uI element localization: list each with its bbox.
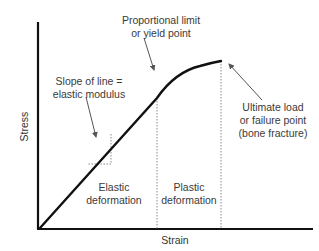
yield-label-line2: or yield point xyxy=(96,27,226,40)
yield-point-label: Proportional limit or yield point xyxy=(96,14,226,40)
elastic-deformation-label: Elastic deformation xyxy=(74,181,154,207)
elastic-label-line2: deformation xyxy=(74,194,154,207)
ultimate-arrow xyxy=(229,64,262,100)
stress-strain-diagram: Proportional limit or yield point Slope … xyxy=(0,0,319,251)
slope-arrow xyxy=(86,97,96,137)
ultimate-label-line1: Ultimate load xyxy=(228,101,318,114)
elastic-label-line1: Elastic xyxy=(74,181,154,194)
ultimate-load-label: Ultimate load or failure point (bone fra… xyxy=(228,101,318,140)
plastic-label-line2: deformation xyxy=(158,194,220,207)
ultimate-label-line3: (bone fracture) xyxy=(228,127,318,140)
x-axis-label: Strain xyxy=(145,234,205,247)
yield-arrow xyxy=(144,38,154,70)
ultimate-label-line2: or failure point xyxy=(228,114,318,127)
y-axis-label: Stress xyxy=(18,107,31,147)
slope-label-line2: elastic modulus xyxy=(44,88,134,101)
slope-label: Slope of line = elastic modulus xyxy=(44,75,134,101)
slope-triangle xyxy=(88,134,111,164)
yield-label-line1: Proportional limit xyxy=(96,14,226,27)
plastic-deformation-label: Plastic deformation xyxy=(158,181,220,207)
slope-label-line1: Slope of line = xyxy=(44,75,134,88)
plastic-label-line1: Plastic xyxy=(158,181,220,194)
